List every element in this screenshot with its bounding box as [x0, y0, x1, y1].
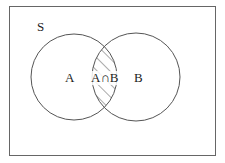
intersection-label: A∩B [91, 70, 119, 85]
set-b-label: B [134, 70, 143, 85]
venn-diagram: S A A∩B B [0, 0, 225, 163]
universe-label: S [37, 19, 44, 34]
set-a-label: A [65, 70, 75, 85]
